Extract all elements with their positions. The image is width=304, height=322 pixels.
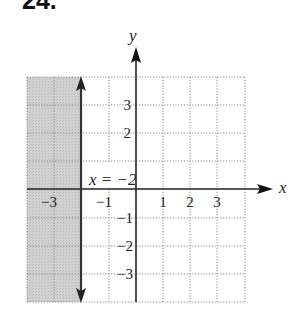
x-tick-3: 3 (213, 194, 221, 210)
y-tick-2: 2 (124, 125, 132, 141)
y-axis-label: y (127, 26, 137, 45)
x-tick-neg1: −1 (96, 194, 112, 210)
graph: y x x = −2 −3 −1 1 2 3 3 2 −1 −2 −3 (0, 0, 304, 322)
line-label: x = −2 (88, 170, 137, 189)
y-tick-neg1: −1 (117, 210, 133, 226)
y-tick-neg2: −2 (117, 238, 133, 254)
x-tick-1: 1 (159, 194, 167, 210)
x-axis-label: x (278, 178, 287, 197)
x-tick-neg3: −3 (41, 194, 57, 210)
x-tick-2: 2 (186, 194, 194, 210)
y-tick-neg3: −3 (117, 266, 133, 282)
y-tick-3: 3 (124, 97, 132, 113)
